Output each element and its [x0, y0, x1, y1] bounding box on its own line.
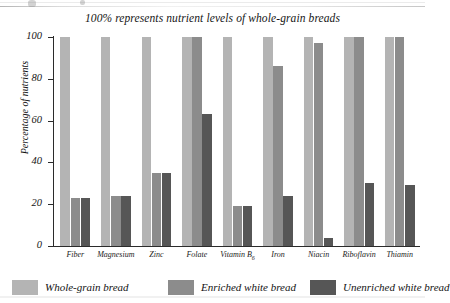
bar — [365, 183, 375, 246]
bar-group — [60, 37, 90, 246]
y-axis-tick — [48, 246, 54, 247]
bar — [385, 37, 395, 246]
bar-group — [182, 37, 212, 246]
legend-label: Unenriched white bread — [343, 281, 450, 293]
scan-artifact-blob — [28, 0, 36, 7]
legend-item: Enriched white bread — [168, 276, 296, 298]
bar-group — [101, 37, 131, 246]
bar — [233, 206, 243, 246]
y-axis-tick-label: 100 — [2, 30, 42, 41]
bar — [354, 37, 364, 246]
bar — [111, 196, 121, 246]
y-axis-tick-label: 60 — [2, 114, 42, 125]
bar — [202, 114, 212, 246]
legend-item: Unenriched white bread — [310, 276, 450, 298]
bar — [405, 185, 415, 246]
bar — [243, 206, 253, 246]
bar — [152, 173, 162, 246]
x-axis-line — [53, 246, 420, 247]
bar — [81, 198, 91, 246]
bar — [60, 37, 70, 246]
legend-label: Enriched white bread — [201, 281, 296, 293]
chart-title: 100% represents nutrient levels of whole… — [0, 12, 425, 24]
scan-artifact-line — [0, 6, 425, 7]
y-axis-tick-label: 20 — [2, 197, 42, 208]
legend-item: Whole-grain bread — [12, 276, 129, 298]
bar-group — [223, 37, 253, 246]
bar-group — [344, 37, 374, 246]
legend-swatch — [12, 280, 38, 295]
bar — [273, 66, 283, 246]
y-axis-tick-label: 80 — [2, 72, 42, 83]
scan-artifact-secondary — [0, 2, 425, 3]
chart-legend: Whole-grain breadEnriched white breadUne… — [0, 276, 425, 303]
plot-area — [54, 37, 419, 246]
bar-group — [263, 37, 293, 246]
bar — [304, 37, 314, 246]
y-axis-tick-label: 0 — [2, 239, 42, 250]
bar — [344, 37, 354, 246]
bar-group — [142, 37, 172, 246]
legend-label: Whole-grain bread — [45, 281, 129, 293]
bar-group — [304, 37, 334, 246]
bar — [283, 196, 293, 246]
bar — [314, 43, 324, 246]
y-axis-tick-label: 40 — [2, 155, 42, 166]
bar — [162, 173, 172, 246]
bar — [142, 37, 152, 246]
x-axis-label: Thiamin — [360, 250, 440, 259]
bar — [71, 198, 81, 246]
bar — [223, 37, 233, 246]
bar — [192, 37, 202, 246]
legend-swatch — [168, 280, 194, 295]
bar-group — [385, 37, 415, 246]
bar — [182, 37, 192, 246]
bar — [395, 37, 405, 246]
legend-swatch — [310, 280, 336, 295]
bar — [263, 37, 273, 246]
bar — [101, 37, 111, 246]
bar — [324, 238, 334, 246]
bar — [121, 196, 131, 246]
scan-artifact-blob — [80, 0, 85, 5]
